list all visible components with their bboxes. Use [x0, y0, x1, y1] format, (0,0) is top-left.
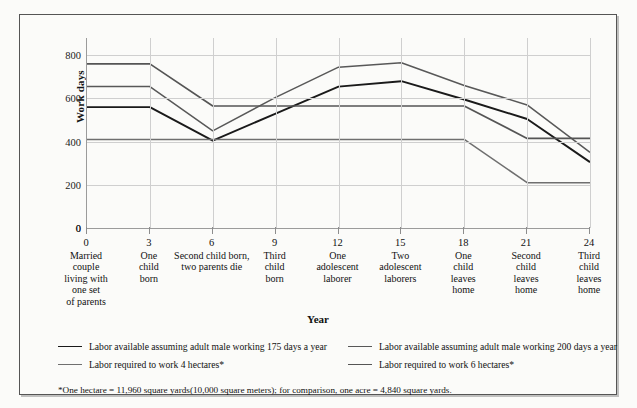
legend-item-2: Labor required to work 4 hectares*	[58, 359, 348, 370]
x-category-15: 15Two adolescent laborers	[379, 237, 421, 284]
y-tick-label: 800	[65, 50, 81, 61]
x-category-description: Second child leaves home	[511, 250, 540, 296]
x-tick-label: 0	[64, 237, 108, 249]
x-category-description: Third child born	[264, 250, 286, 285]
legend-label-0: Labor available assuming adult male work…	[89, 341, 327, 352]
x-category-18: 18One child leaves home	[451, 237, 476, 296]
legend-swatch-line-icon	[348, 346, 372, 347]
x-tick-mark	[589, 227, 590, 234]
x-category-description: Two adolescent laborers	[379, 250, 421, 285]
y-tick-label: 400	[65, 136, 81, 147]
legend-item-1: Labor available assuming adult male work…	[348, 341, 598, 352]
x-gridline	[213, 38, 214, 228]
legend: Labor available assuming adult male work…	[58, 341, 598, 377]
legend-label-2: Labor required to work 4 hectares*	[89, 359, 224, 370]
x-category-6: 6Second child born, two parents die	[174, 237, 249, 273]
x-gridline	[150, 38, 151, 228]
legend-swatch-line-icon	[58, 346, 82, 347]
x-tick-label: 18	[451, 237, 476, 249]
legend-item-0: Labor available assuming adult male work…	[58, 341, 348, 352]
x-tick-label: 6	[174, 237, 249, 249]
x-category-24: 24Third child leaves home	[577, 237, 602, 296]
chart-page: Work days 02004006008000 0Married couple…	[0, 0, 637, 408]
chart-frame: Work days 02004006008000 0Married couple…	[19, 14, 617, 395]
x-category-description: One adolescent laborer	[316, 250, 358, 285]
x-gridline	[464, 38, 465, 228]
x-tick-mark	[149, 227, 150, 234]
x-tick-mark	[463, 227, 464, 234]
x-category-description: Married couple living with one set of pa…	[64, 250, 108, 308]
x-category-description: Third child leaves home	[577, 250, 602, 296]
plot-canvas: 02004006008000	[86, 38, 590, 229]
x-tick-label: 9	[264, 237, 286, 249]
footnote: *One hectare = 11,960 square yards(10,00…	[58, 385, 452, 395]
x-gridline	[527, 38, 528, 228]
x-tick-label: 15	[379, 237, 421, 249]
x-axis: 0Married couple living with one set of p…	[86, 233, 589, 313]
x-tick-label: 24	[577, 237, 602, 249]
legend-label-1: Labor available assuming adult male work…	[379, 341, 617, 352]
y-gridline	[87, 228, 590, 229]
legend-label-3: Labor required to work 6 hectares*	[379, 359, 514, 370]
x-category-12: 12One adolescent laborer	[316, 237, 358, 284]
legend-swatch-line-icon	[58, 364, 82, 365]
x-tick-mark	[400, 227, 401, 234]
x-gridline	[590, 38, 591, 228]
x-tick-mark	[86, 227, 87, 234]
x-category-description: One child born	[139, 250, 159, 285]
x-tick-mark	[212, 227, 213, 234]
x-tick-label: 21	[511, 237, 540, 249]
x-gridline	[339, 38, 340, 228]
y-tick-label: 600	[65, 93, 81, 104]
y-tick-label: 200	[65, 179, 81, 190]
x-gridline	[401, 38, 402, 228]
x-axis-title: Year	[20, 313, 616, 325]
legend-swatch-line-icon	[348, 364, 372, 365]
x-gridline	[276, 38, 277, 228]
x-tick-mark	[338, 227, 339, 234]
legend-item-3: Labor required to work 6 hectares*	[348, 359, 598, 370]
x-category-3: 3One child born	[139, 237, 159, 284]
x-tick-label: 3	[139, 237, 159, 249]
plot-area: Work days 02004006008000	[68, 33, 608, 238]
x-tick-mark	[275, 227, 276, 234]
x-category-9: 9Third child born	[264, 237, 286, 284]
x-tick-label: 12	[316, 237, 358, 249]
x-category-21: 21Second child leaves home	[511, 237, 540, 296]
x-category-0: 0Married couple living with one set of p…	[64, 237, 108, 307]
x-tick-mark	[526, 227, 527, 234]
x-category-description: Second child born, two parents die	[174, 250, 249, 273]
x-category-description: One child leaves home	[451, 250, 476, 296]
y-origin-label: 0	[76, 223, 81, 234]
